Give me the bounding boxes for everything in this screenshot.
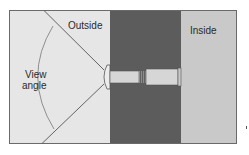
stray-mark — [246, 126, 247, 129]
outside-label: Outside — [68, 20, 103, 31]
inside-label: Inside — [190, 25, 217, 36]
eyepiece-flange — [178, 68, 181, 86]
threaded-joint — [139, 71, 146, 83]
peephole-diagram: Outside Inside View angle — [0, 0, 249, 155]
view-angle-label-line1: View — [25, 69, 47, 80]
view-angle-label-line2: angle — [22, 80, 47, 91]
outer-barrel — [110, 71, 139, 83]
eyepiece-barrel — [146, 69, 178, 85]
